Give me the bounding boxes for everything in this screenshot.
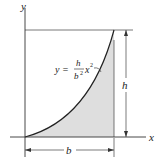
diagram-canvas: y x h b y = h b 2 x 2 — [0, 0, 168, 167]
equation-denominator-exponent: 2 — [80, 70, 83, 76]
x-axis-label: x — [148, 131, 154, 143]
shaded-area — [25, 30, 114, 137]
y-axis-label: y — [20, 0, 26, 12]
curve-equation: y = h b 2 x 2 — [54, 58, 93, 81]
height-label: h — [122, 79, 128, 91]
equation-variable-exponent: 2 — [90, 62, 93, 68]
equation-denominator: b — [74, 71, 79, 81]
width-label: b — [66, 144, 72, 156]
equation-lhs: y = — [54, 64, 69, 75]
equation-numerator: h — [76, 58, 81, 68]
